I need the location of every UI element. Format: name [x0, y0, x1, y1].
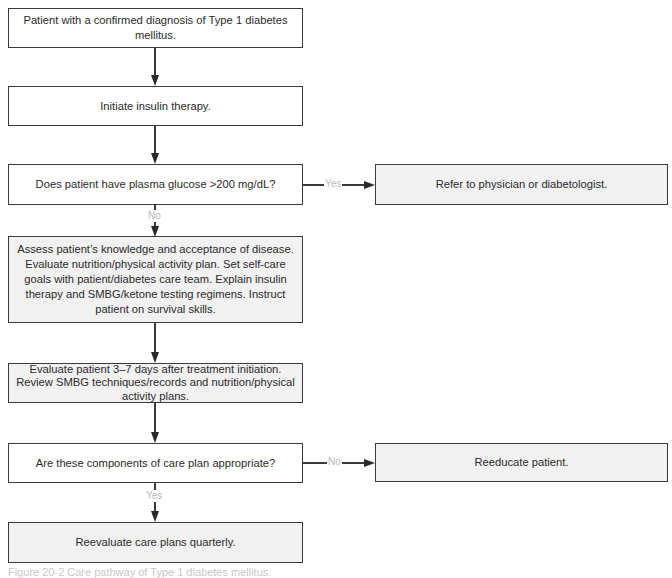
node-evaluate-patient: Evaluate patient 3–7 days after treatmen…: [8, 363, 303, 403]
connector-line: [154, 403, 156, 433]
node-initiate-insulin: Initiate insulin therapy.: [8, 86, 303, 126]
figure-caption: Figure 20-2 Care pathway of Type 1 diabe…: [8, 566, 271, 578]
node-text: Refer to physician or diabetologist.: [436, 177, 608, 192]
edge-label-no: No: [147, 210, 162, 222]
node-text: Evaluate patient 3–7 days after treatmen…: [15, 363, 296, 404]
node-assess-patient: Assess patient’s knowledge and acceptanc…: [8, 236, 303, 323]
edge-label-yes: Yes: [324, 178, 342, 190]
node-text: Patient with a confirmed diagnosis of Ty…: [17, 13, 294, 43]
arrow-down-icon: [151, 432, 159, 443]
node-text: Reevaluate care plans quarterly.: [75, 535, 235, 550]
arrow-down-icon: [151, 75, 159, 86]
node-text: Are these components of care plan approp…: [36, 456, 275, 471]
node-text: Assess patient’s knowledge and acceptanc…: [15, 242, 296, 317]
arrow-right-icon: [364, 181, 375, 189]
node-refer-physician: Refer to physician or diabetologist.: [375, 164, 668, 205]
node-confirmed-diagnosis: Patient with a confirmed diagnosis of Ty…: [8, 8, 303, 48]
node-reevaluate-quarterly: Reevaluate care plans quarterly.: [8, 522, 303, 563]
arrow-down-icon: [151, 511, 159, 522]
edge-label-no: No: [327, 456, 342, 468]
connector-line: [154, 48, 156, 76]
decision-plasma-glucose: Does patient have plasma glucose >200 mg…: [8, 164, 303, 205]
arrow-down-icon: [151, 352, 159, 363]
node-text: Initiate insulin therapy.: [100, 99, 211, 114]
edge-label-yes: Yes: [145, 490, 163, 502]
connector-line: [154, 323, 156, 353]
arrow-down-icon: [151, 153, 159, 164]
node-text: Does patient have plasma glucose >200 mg…: [36, 177, 276, 192]
arrow-right-icon: [364, 459, 375, 467]
node-reeducate-patient: Reeducate patient.: [375, 443, 668, 482]
decision-care-plan: Are these components of care plan approp…: [8, 443, 303, 483]
node-text: Reeducate patient.: [475, 455, 569, 470]
connector-line: [154, 126, 156, 154]
